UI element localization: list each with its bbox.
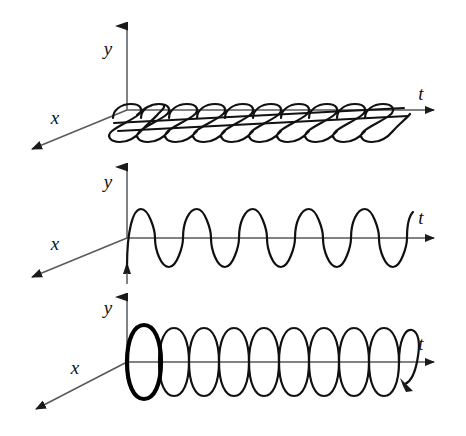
- panel-perspective-view-x-axis: x: [36, 357, 127, 409]
- t-axis-label: t: [418, 207, 424, 228]
- panel-front-view-y-axis: y: [102, 167, 127, 238]
- figure-canvas: y t x y: [0, 0, 466, 436]
- x-axis-label: x: [70, 357, 80, 378]
- x-axis-line: [32, 238, 127, 277]
- panel-front-view-x-axis: x: [32, 233, 127, 277]
- y-axis-label: y: [102, 171, 113, 192]
- panel-perspective-view-y-axis: y: [102, 297, 127, 362]
- panel-front-view: y t x: [32, 167, 434, 284]
- panel-perspective-view: y t x: [36, 297, 434, 409]
- y-axis-label: y: [102, 38, 113, 59]
- panel-front-view-t-axis: t: [127, 207, 434, 238]
- panel-top-view: y t x: [32, 26, 434, 149]
- panel-top-view-y-axis: y: [102, 26, 127, 110]
- x-axis-line: [36, 362, 127, 409]
- x-axis-label: x: [50, 107, 60, 128]
- helix-turn-final: [399, 330, 419, 384]
- t-axis-label: t: [418, 83, 424, 104]
- y-axis-label: y: [102, 297, 113, 318]
- x-axis-label: x: [50, 233, 60, 254]
- three-panel-helix-diagram: y t x y: [0, 0, 466, 436]
